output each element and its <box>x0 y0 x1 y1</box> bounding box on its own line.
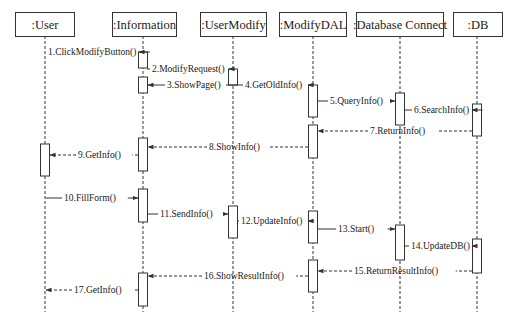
message-13: 13.Start() <box>318 224 395 235</box>
lifeline-header-modifydal: :ModifyDAL <box>280 13 347 37</box>
message-label: 12.UpdateInfo() <box>241 216 302 227</box>
message-label: 17.GetInfo() <box>74 285 122 296</box>
message-label: 13.Start() <box>338 224 374 235</box>
message-label: 15.ReturnResultInfo() <box>354 266 438 277</box>
message-10: 10.FillForm() <box>46 193 138 204</box>
messages: 1.ClickModifyButton()2.ModifyRequest()3.… <box>46 47 483 296</box>
message-label: 1.ClickModifyButton() <box>48 47 136 58</box>
message-label: 4.GetOldInfo() <box>245 80 302 91</box>
lifeline-label: :UserModify <box>201 18 266 32</box>
message-label: 8.ShowInfo() <box>209 142 260 153</box>
message-11: 11.SendInfo() <box>148 209 228 220</box>
message-2: 2.ModifyRequest() <box>147 64 235 75</box>
message-6: 6.SearchInfo() <box>405 105 483 116</box>
lifeline-label: :ModifyDAL <box>280 18 347 32</box>
message-9: 9.GetInfo() <box>50 150 138 161</box>
activation-bar-information <box>139 189 148 222</box>
activation-bar-modifydal <box>309 260 318 292</box>
message-label: 11.SendInfo() <box>160 209 213 220</box>
message-16: 16.ShowResultInfo() <box>148 271 308 282</box>
message-5: 5.QueryInfo() <box>318 96 395 107</box>
message-label: 2.ModifyRequest() <box>152 64 225 75</box>
lifeline-label: :User <box>31 18 59 32</box>
lifeline-header-user: :User <box>16 13 75 37</box>
activation-bar-usermodify <box>229 69 238 85</box>
message-label: 16.ShowResultInfo() <box>204 271 284 282</box>
message-1: 1.ClickModifyButton() <box>48 47 150 58</box>
message-label: 7.ReturnInfo() <box>370 126 425 137</box>
activation-bar-user <box>41 144 50 176</box>
message-label: 14.UpdateDB() <box>411 241 470 252</box>
sequence-diagram: 1.ClickModifyButton()2.ModifyRequest()3.… <box>0 0 515 327</box>
message-15: 15.ReturnResultInfo() <box>318 266 472 277</box>
message-label: 10.FillForm() <box>64 193 116 204</box>
message-8: 8.ShowInfo() <box>148 142 308 153</box>
activation-bar-db <box>473 239 482 273</box>
lifeline-headers: :User:Information:UserModify:ModifyDAL:D… <box>16 13 503 37</box>
message-17: 17.GetInfo() <box>46 285 138 296</box>
lifeline-header-usermodify: :UserModify <box>201 13 267 37</box>
message-label: 3.ShowPage() <box>167 80 221 91</box>
lifeline-header-db: :DB <box>454 13 503 37</box>
activation-bar-modifydal <box>309 211 318 243</box>
lifeline-label: :DB <box>468 18 489 32</box>
activation-bar-information <box>139 52 148 68</box>
activation-bar-information <box>139 138 148 171</box>
message-label: 6.SearchInfo() <box>414 105 469 116</box>
activation-bar-modifydal <box>309 85 318 117</box>
lifeline-header-dbconnect: :Database Connect <box>353 13 448 37</box>
activation-bar-dbconnect <box>396 225 405 260</box>
lifeline-header-information: :Information <box>113 13 177 37</box>
message-4: 4.GetOldInfo() <box>237 80 314 91</box>
message-3: 3.ShowPage() <box>148 80 237 91</box>
message-14: 14.UpdateDB() <box>405 241 475 252</box>
lifeline-label: :Information <box>113 18 177 32</box>
lifeline-label: :Database Connect <box>353 18 448 32</box>
message-12: 12.UpdateInfo() <box>238 216 314 227</box>
activation-bar-information <box>139 77 148 93</box>
message-label: 9.GetInfo() <box>78 150 121 161</box>
activation-bar-usermodify <box>229 206 238 238</box>
message-7: 7.ReturnInfo() <box>318 126 472 137</box>
activation-bar-modifydal <box>309 125 318 158</box>
activation-bar-dbconnect <box>396 93 405 125</box>
message-label: 5.QueryInfo() <box>330 96 383 107</box>
activation-bar-db <box>473 104 482 136</box>
activation-bar-information <box>139 273 148 306</box>
